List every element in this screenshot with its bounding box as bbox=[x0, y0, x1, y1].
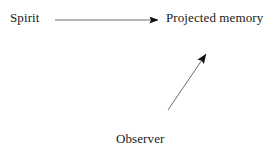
arrow-observer-to-projected-memory bbox=[168, 54, 206, 110]
node-label-observer: Observer bbox=[116, 132, 164, 146]
node-label-spirit: Spirit bbox=[10, 11, 40, 25]
node-label-projected-memory: Projected memory bbox=[166, 11, 263, 25]
diagram-canvas: Spirit Projected memory Observer bbox=[0, 0, 277, 160]
